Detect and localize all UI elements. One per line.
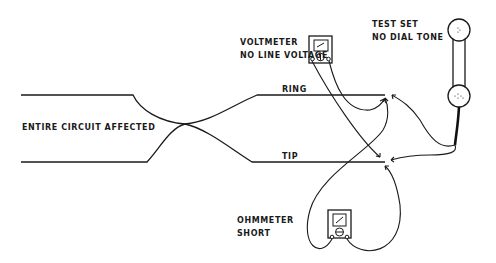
test-set-lead-ring — [392, 95, 455, 146]
tip-label: TIP — [282, 150, 298, 163]
voltmeter-label-line1: VOLTMETER — [240, 36, 328, 49]
ohmmeter-label-line1: OHMMETER — [237, 214, 294, 227]
ohmmeter-lead-tip — [347, 166, 400, 251]
test-set-handset-icon — [448, 19, 470, 107]
test-set-label-line2: NO DIAL TONE — [372, 31, 444, 44]
ohmmeter-icon — [328, 210, 351, 239]
test-set-label: TEST SET NO DIAL TONE — [372, 18, 444, 44]
ohmmeter-label-line2: SHORT — [237, 227, 294, 240]
ring-conductor — [21, 95, 385, 124]
test-set-lead-tip — [391, 145, 456, 160]
voltmeter-lead-tip — [312, 61, 380, 157]
voltmeter-label: VOLTMETER NO LINE VOLTAGE — [240, 36, 328, 62]
test-set-label-line1: TEST SET — [372, 18, 444, 31]
test-set-cord — [455, 107, 459, 145]
voltmeter-label-line2: NO LINE VOLTAGE — [240, 49, 328, 62]
ring-label: RING — [282, 83, 307, 96]
ohmmeter-label: OHMMETER SHORT — [237, 214, 294, 240]
circuit-label: ENTIRE CIRCUIT AFFECTED — [22, 121, 155, 134]
